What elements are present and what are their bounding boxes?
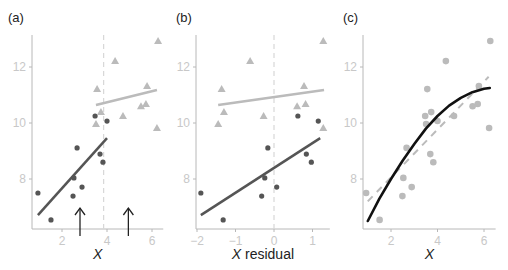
chart-figure: (a)81012246X (b)81012−2−101X residual (c… bbox=[0, 0, 508, 270]
panel-c: (c)81012246X bbox=[343, 10, 496, 262]
circle-marker bbox=[474, 101, 481, 108]
x-axis-title: X bbox=[424, 246, 435, 262]
x-tick-label: 6 bbox=[481, 234, 488, 248]
regression-line bbox=[201, 138, 320, 215]
circle-marker bbox=[79, 185, 84, 190]
circle-marker bbox=[486, 125, 493, 132]
circle-marker bbox=[70, 193, 75, 198]
y-tick-label: 12 bbox=[13, 60, 27, 74]
circle-marker bbox=[100, 160, 105, 165]
circle-marker bbox=[35, 190, 40, 195]
triangle-marker bbox=[119, 112, 127, 119]
circle-marker bbox=[399, 193, 406, 200]
circle-marker bbox=[262, 175, 267, 180]
x-tick-label: 6 bbox=[149, 234, 156, 248]
circle-marker bbox=[451, 113, 458, 120]
circle-marker bbox=[295, 113, 300, 118]
circle-marker bbox=[97, 151, 102, 156]
x-tick-label: 2 bbox=[388, 234, 395, 248]
circle-marker bbox=[487, 38, 494, 45]
circle-marker bbox=[316, 118, 321, 123]
circle-marker bbox=[422, 113, 429, 120]
panel-label: (c) bbox=[343, 10, 358, 25]
triangle-marker bbox=[293, 102, 301, 109]
circle-marker bbox=[376, 217, 383, 224]
triangle-marker bbox=[300, 82, 308, 89]
triangle-marker bbox=[319, 124, 327, 131]
panel-a: (a)81012246X bbox=[8, 10, 163, 262]
circle-marker bbox=[443, 58, 450, 65]
circle-marker bbox=[427, 151, 434, 158]
x-tick-label: −2 bbox=[190, 234, 204, 248]
circle-marker bbox=[274, 185, 279, 190]
circle-marker bbox=[430, 159, 437, 166]
circle-marker bbox=[424, 86, 431, 93]
circle-marker bbox=[259, 193, 264, 198]
triangle-marker bbox=[111, 57, 119, 64]
circle-marker bbox=[104, 118, 109, 123]
circle-marker bbox=[74, 145, 79, 150]
y-tick-label: 8 bbox=[19, 172, 26, 186]
circle-marker bbox=[408, 184, 415, 191]
regression-line bbox=[96, 90, 157, 105]
triangle-marker bbox=[93, 85, 101, 92]
panel-label: (a) bbox=[8, 10, 24, 25]
circle-marker bbox=[71, 175, 76, 180]
linear-fit-dashed-line bbox=[368, 77, 489, 202]
circle-marker bbox=[265, 145, 270, 150]
y-tick-label: 12 bbox=[344, 60, 358, 74]
circle-marker bbox=[304, 151, 309, 156]
regression-line bbox=[218, 90, 324, 105]
x-tick-label: 1 bbox=[309, 234, 316, 248]
y-tick-label: 10 bbox=[177, 116, 191, 130]
circle-marker bbox=[400, 175, 407, 182]
circle-marker bbox=[363, 190, 370, 197]
triangle-marker bbox=[220, 108, 228, 115]
triangle-marker bbox=[319, 37, 327, 44]
triangle-marker bbox=[302, 100, 310, 107]
y-tick-label: 10 bbox=[344, 116, 358, 130]
circle-marker bbox=[309, 160, 314, 165]
circle-marker bbox=[92, 113, 97, 118]
circle-marker bbox=[198, 190, 203, 195]
x-axis-title: X bbox=[92, 246, 103, 262]
y-tick-label: 8 bbox=[183, 172, 190, 186]
triangle-marker bbox=[260, 112, 268, 119]
triangle-marker bbox=[218, 85, 226, 92]
triangle-marker bbox=[154, 37, 162, 44]
triangle-marker bbox=[92, 120, 100, 127]
triangle-marker bbox=[143, 82, 151, 89]
x-tick-label: 2 bbox=[59, 234, 66, 248]
x-axis-title: X residual bbox=[231, 246, 294, 262]
panel-b: (b)81012−2−101X residual bbox=[176, 10, 330, 262]
triangle-marker bbox=[246, 57, 254, 64]
circle-marker bbox=[221, 217, 226, 222]
x-tick-label: 4 bbox=[104, 234, 111, 248]
triangle-marker bbox=[214, 120, 222, 127]
triangle-marker bbox=[142, 100, 150, 107]
x-tick-label: 4 bbox=[434, 234, 441, 248]
panel-label: (b) bbox=[176, 10, 192, 25]
y-tick-label: 8 bbox=[350, 172, 357, 186]
circle-marker bbox=[428, 109, 435, 116]
y-tick-label: 12 bbox=[177, 60, 191, 74]
circle-marker bbox=[48, 217, 53, 222]
triangle-marker bbox=[153, 124, 161, 131]
y-tick-label: 10 bbox=[13, 116, 27, 130]
